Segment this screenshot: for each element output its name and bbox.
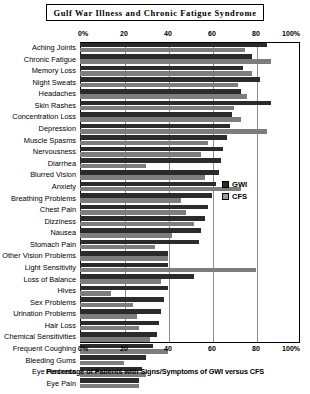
bar-group <box>80 262 300 274</box>
bar-cfs <box>80 164 146 169</box>
bar-cfs <box>80 141 208 146</box>
bar-group <box>80 77 300 89</box>
bar-gwi <box>80 228 201 233</box>
chart-row: Hives <box>0 285 310 297</box>
bar-gwi <box>80 332 157 337</box>
legend-item: CFS <box>222 192 268 201</box>
bar-cfs <box>80 222 194 227</box>
bar-rows: Aching JointsChronic FatigueMemory LossN… <box>0 42 310 389</box>
bar-gwi <box>80 182 216 187</box>
x-axis-label: Percentage of Patients with Signs/Sympto… <box>0 367 310 376</box>
category-label: Anxiety <box>52 181 76 193</box>
chart-row: Muscle Spasms <box>0 135 310 147</box>
x-tick-label: 20 <box>120 345 128 352</box>
category-label: Chest Pain <box>40 204 76 216</box>
bar-cfs <box>80 187 241 192</box>
chart-row: Hair Loss <box>0 320 310 332</box>
chart-page: Gulf War Illness and Chronic Fatigue Syn… <box>0 0 310 394</box>
category-label: Memory Loss <box>32 65 76 77</box>
bar-gwi <box>80 158 221 163</box>
chart-row: Diarrhea <box>0 158 310 170</box>
x-tick-label: 20 <box>120 30 128 37</box>
x-tick-label: 80 <box>252 30 260 37</box>
bar-gwi <box>80 309 161 314</box>
chart-row: Chemical Sensitivities <box>0 331 310 343</box>
bar-cfs <box>80 198 181 203</box>
legend-item: GWI <box>222 180 268 189</box>
bar-cfs <box>80 291 111 296</box>
category-label: Blurred Vision <box>30 169 76 181</box>
chart-title-box: Gulf War Illness and Chronic Fatigue Syn… <box>46 4 264 21</box>
bar-cfs <box>80 71 252 76</box>
bar-gwi <box>80 378 139 383</box>
chart-row: Other Vision Problems <box>0 250 310 262</box>
bar-gwi <box>80 297 164 302</box>
bar-group <box>80 158 300 170</box>
category-label: Breathing Problems <box>11 193 76 205</box>
bar-group <box>80 297 300 309</box>
bar-cfs <box>80 117 241 122</box>
bar-gwi <box>80 112 232 117</box>
bar-group <box>80 355 300 367</box>
legend-swatch-gwi <box>222 181 229 188</box>
bar-gwi <box>80 43 267 48</box>
category-label: Hair Loss <box>45 320 76 332</box>
category-label: Nausea <box>51 227 76 239</box>
bar-cfs <box>80 256 168 261</box>
category-label: Urination Problems <box>13 308 76 320</box>
category-label: Eye Pain <box>46 378 76 390</box>
category-label: Chemical Sensitivities <box>4 331 76 343</box>
bar-group <box>80 308 300 320</box>
chart-row: Depression <box>0 123 310 135</box>
x-tick-label: 0% <box>78 345 88 352</box>
bar-cfs <box>80 303 133 308</box>
bar-cfs <box>80 279 161 284</box>
bar-gwi <box>80 216 205 221</box>
bar-cfs <box>80 210 186 215</box>
chart-row: Night Sweats <box>0 77 310 89</box>
x-tick-label: 40 <box>164 345 172 352</box>
bar-gwi <box>80 54 252 59</box>
chart-row: Urination Problems <box>0 308 310 320</box>
category-label: Dizziness <box>44 216 76 228</box>
category-label: Loss of Balance <box>23 274 76 286</box>
category-label: Frequent Coughing <box>13 343 76 355</box>
bar-gwi <box>80 193 212 198</box>
chart-row: Eye Pain <box>0 378 310 390</box>
chart-row: Light Sensitivity <box>0 262 310 274</box>
bar-group <box>80 239 300 251</box>
bar-gwi <box>80 77 260 82</box>
bar-cfs <box>80 233 172 238</box>
bar-group <box>80 111 300 123</box>
chart-row: Nausea <box>0 227 310 239</box>
bar-group <box>80 250 300 262</box>
category-label: Night Sweats <box>32 77 76 89</box>
chart-row: Headaches <box>0 88 310 100</box>
x-axis-bottom: 0%20406080100% <box>80 345 300 356</box>
bar-group <box>80 274 300 286</box>
bar-group <box>80 54 300 66</box>
chart-legend: GWICFS <box>222 180 268 204</box>
bar-gwi <box>80 89 241 94</box>
bar-cfs <box>80 83 238 88</box>
bar-group <box>80 42 300 54</box>
bar-gwi <box>80 124 230 129</box>
bar-gwi <box>80 286 168 291</box>
x-tick-label: 40 <box>164 30 172 37</box>
legend-label: CFS <box>232 192 247 201</box>
bar-gwi <box>80 170 219 175</box>
bar-group <box>80 100 300 112</box>
chart-row: Memory Loss <box>0 65 310 77</box>
bar-cfs <box>80 337 150 342</box>
chart-row: Bleeding Gums <box>0 355 310 367</box>
chart-row: Concentration Loss <box>0 111 310 123</box>
bar-gwi <box>80 251 168 256</box>
bar-gwi <box>80 101 271 106</box>
bar-cfs <box>80 361 124 366</box>
bar-cfs <box>80 175 205 180</box>
category-label: Hives <box>58 285 76 297</box>
chart-row: Nervousness <box>0 146 310 158</box>
bar-cfs <box>80 268 256 273</box>
legend-label: GWI <box>232 180 247 189</box>
category-label: Stomach Pain <box>30 239 76 251</box>
